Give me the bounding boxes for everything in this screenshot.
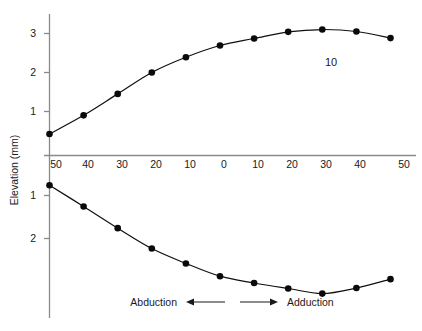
y-axis-title: Elevation (mm) <box>8 135 20 206</box>
x-tick-label-10: 50 <box>398 158 410 170</box>
data-point <box>251 35 258 42</box>
y-tick-label-lower-1: 1 <box>30 189 36 201</box>
x-tick-label-4: 10 <box>184 158 196 170</box>
data-point <box>80 112 87 119</box>
y-tick-label-lower-2: 2 <box>30 232 36 244</box>
data-point <box>183 260 190 267</box>
y-axis-ticks-lower <box>44 196 50 239</box>
y-tick-label-upper-2: 2 <box>30 66 36 78</box>
lower-curve-points <box>46 182 394 297</box>
direction-label-adduction: Adduction <box>287 296 334 308</box>
data-point <box>353 28 360 35</box>
data-point <box>319 26 326 33</box>
data-point <box>46 182 53 189</box>
data-point <box>80 203 87 210</box>
x-tick-label-0: 50 <box>50 158 62 170</box>
x-tick-label-7: 20 <box>286 158 298 170</box>
data-point <box>183 54 190 61</box>
data-point <box>285 285 292 292</box>
x-tick-label-9: 40 <box>354 158 366 170</box>
data-point <box>353 285 360 292</box>
data-point <box>114 91 121 98</box>
data-point <box>251 280 258 287</box>
data-point <box>149 245 156 252</box>
data-point <box>217 273 224 280</box>
x-tick-label-2: 30 <box>116 158 128 170</box>
abduction-arrow-icon <box>186 299 225 306</box>
chart-figure: 1 2 3 1 2 Elevation (mm) 50 40 30 20 10 … <box>0 0 422 331</box>
x-tick-label-5: 0 <box>221 158 227 170</box>
series-annotation-10: 10 <box>325 56 337 68</box>
data-point <box>285 29 292 36</box>
y-tick-label-upper-3: 3 <box>30 27 36 39</box>
data-point <box>149 69 156 76</box>
data-point <box>387 35 394 42</box>
data-point <box>114 225 121 232</box>
data-point <box>217 42 224 49</box>
x-tick-label-1: 40 <box>82 158 94 170</box>
upper-curve-points <box>46 26 394 137</box>
adduction-arrow-icon <box>240 299 278 306</box>
direction-label-abduction: Abduction <box>130 296 177 308</box>
x-tick-label-6: 10 <box>252 158 264 170</box>
data-point <box>387 276 394 283</box>
x-tick-label-3: 20 <box>150 158 162 170</box>
y-tick-label-upper-1: 1 <box>30 105 36 117</box>
y-axis-ticks-upper <box>44 34 50 112</box>
elevation-abduction-adduction-chart: 1 2 3 1 2 Elevation (mm) 50 40 30 20 10 … <box>0 0 422 331</box>
data-point <box>46 131 53 138</box>
x-tick-label-8: 30 <box>320 158 332 170</box>
